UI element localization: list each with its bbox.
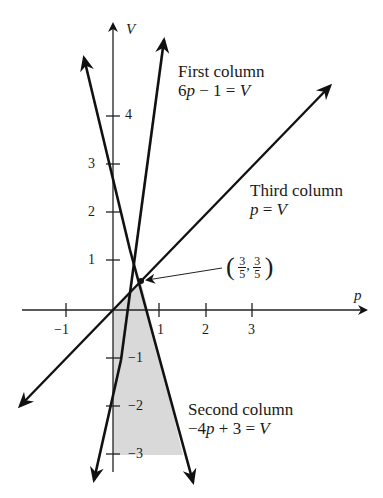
x-tick-label: 1 bbox=[157, 322, 164, 338]
y-tick-label: 1 bbox=[88, 252, 95, 268]
p-axis-label: p bbox=[354, 286, 362, 305]
second-column-line bbox=[84, 58, 130, 250]
second-column-equation: −4p + 3 = V bbox=[188, 419, 293, 438]
third-column-title: Third column bbox=[250, 181, 343, 200]
y-tick-label: 4 bbox=[125, 107, 132, 123]
v-axis-label: V bbox=[126, 20, 135, 39]
x-tick-label: −1 bbox=[54, 322, 69, 338]
first-column-title: First column bbox=[178, 62, 264, 81]
shaded-region bbox=[113, 281, 183, 455]
y-tick-label: 2 bbox=[88, 204, 95, 220]
x-tick-label: 2 bbox=[202, 322, 209, 338]
third-column-equation: p = V bbox=[250, 200, 343, 219]
intersection-annotation: ( 35, 35 ) bbox=[226, 252, 273, 282]
y-tick-label: 3 bbox=[88, 156, 95, 172]
y-tick-label: −2 bbox=[128, 398, 143, 414]
annotation-arrow bbox=[147, 268, 222, 280]
intersection-point bbox=[138, 278, 144, 284]
fraction-v: 35 bbox=[253, 255, 261, 280]
second-column-label: Second column −4p + 3 = V bbox=[188, 400, 293, 438]
third-column-label: Third column p = V bbox=[250, 181, 343, 219]
second-column-title: Second column bbox=[188, 400, 293, 419]
first-column-label: First column 6p − 1 = V bbox=[178, 62, 264, 100]
x-tick-label: 3 bbox=[248, 322, 255, 338]
y-tick-label: −3 bbox=[128, 446, 143, 462]
fraction-p: 35 bbox=[238, 255, 246, 280]
first-column-equation: 6p − 1 = V bbox=[178, 81, 264, 100]
y-tick-label: −1 bbox=[128, 350, 143, 366]
